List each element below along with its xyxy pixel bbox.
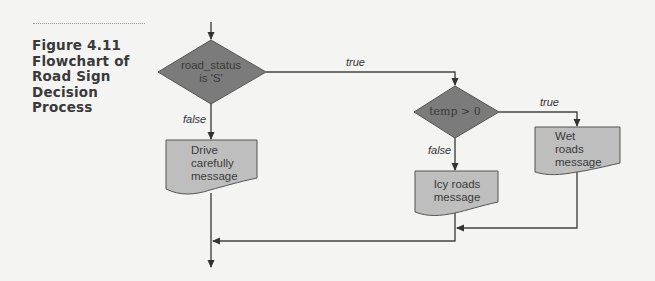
edge-label-d1-true: true [346, 56, 365, 69]
decision-road-status-label: road_status is 'S' [171, 59, 251, 85]
d2-true-connector [499, 112, 577, 126]
icy-merge-connector [213, 212, 455, 241]
d1-true-connector [266, 72, 455, 85]
edge-label-d1-false: false [183, 113, 206, 126]
wet-roads-label: Wet roads message [555, 130, 602, 169]
edge-label-d2-true: true [540, 96, 559, 109]
icy-roads-label: Icy roads message [418, 178, 496, 204]
drive-carefully-label: Drive carefully message [191, 144, 238, 183]
decision-temp-label: temp > 0 [420, 105, 490, 118]
edge-label-d2-false: false [428, 144, 451, 157]
